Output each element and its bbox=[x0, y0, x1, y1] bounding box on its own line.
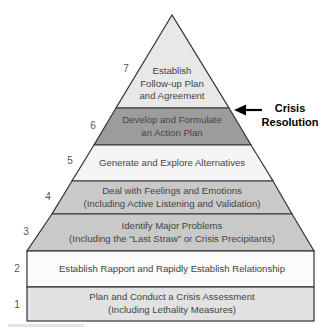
level-2-label: Establish Rapport and Rapidly Establish … bbox=[59, 263, 285, 276]
callout-line-2: Resolution bbox=[262, 115, 319, 129]
level-3-label: Identify Major Problems (Including the “… bbox=[69, 220, 275, 245]
level-6-line-1: Develop and Formulate bbox=[122, 114, 222, 127]
crisis-resolution-callout: Crisis Resolution bbox=[262, 101, 319, 129]
footer-bar bbox=[8, 324, 84, 327]
level-6-label: Develop and Formulate an Action Plan bbox=[122, 114, 222, 139]
level-number-4: 4 bbox=[45, 191, 51, 202]
level-4-line-1: Deal with Feelings and Emotions bbox=[84, 185, 261, 198]
level-1-line-1: Plan and Conduct a Crisis Assessment bbox=[89, 291, 254, 304]
level-3-line-1: Identify Major Problems bbox=[69, 220, 275, 233]
level-1-label: Plan and Conduct a Crisis Assessment (In… bbox=[89, 291, 254, 316]
level-7-line-3: and Agreement bbox=[139, 90, 204, 103]
level-3-line-2: (Including the “Last Straw” or Crisis Pr… bbox=[69, 233, 275, 246]
level-number-7: 7 bbox=[123, 63, 129, 74]
level-1-line-2: (Including Lethality Measures) bbox=[89, 304, 254, 317]
level-5-line-1: Generate and Explore Alternatives bbox=[99, 157, 245, 170]
arrow-left-icon bbox=[234, 105, 262, 116]
level-number-3: 3 bbox=[23, 226, 29, 237]
level-number-6: 6 bbox=[90, 120, 96, 131]
callout-line-1: Crisis bbox=[262, 101, 319, 115]
level-4-line-2: (Including Active Listening and Validati… bbox=[84, 198, 261, 211]
level-5-label: Generate and Explore Alternatives bbox=[99, 157, 245, 170]
level-4-label: Deal with Feelings and Emotions (Includi… bbox=[84, 185, 261, 210]
level-number-2: 2 bbox=[14, 263, 20, 274]
level-2-line-1: Establish Rapport and Rapidly Establish … bbox=[59, 263, 285, 276]
level-7-line-2: Follow-up Plan bbox=[139, 78, 204, 91]
level-number-5: 5 bbox=[67, 155, 73, 166]
level-7-label: Establish Follow-up Plan and Agreement bbox=[139, 65, 204, 103]
level-number-1: 1 bbox=[14, 299, 20, 310]
level-7-line-1: Establish bbox=[139, 65, 204, 78]
level-6-line-2: an Action Plan bbox=[122, 127, 222, 140]
